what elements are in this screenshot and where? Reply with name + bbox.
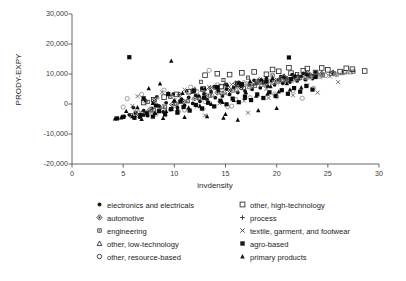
small-square-open-icon [94,225,105,236]
diamond-icon [94,212,105,223]
y-tick-label: 10,000 [24,69,68,78]
y-axis-title: PRODY-EXPY [14,40,23,120]
legend-item[interactable]: other, high-technology [237,198,350,211]
legend-column-left: electronics and electricalsautomotiveeng… [94,198,194,263]
legend-column-right: other, high-technologyprocesstextile, ga… [237,198,350,263]
x-tick-label: 20 [262,169,292,178]
y-tick-label: 30,000 [24,9,68,18]
filled-triangle-icon [237,251,248,262]
legend-item[interactable]: process [237,211,350,224]
square-open-icon [237,199,248,210]
legend-item-label: other, resource-based [105,251,181,264]
triangle-open-icon [94,238,105,249]
scatter-plot-area: -20,000-10,000010,00020,00030,000 051015… [0,0,406,200]
legend-item[interactable]: electronics and electricals [94,198,194,211]
x-tick-label: 15 [211,169,241,178]
legend-item[interactable]: automotive [94,211,194,224]
legend-item[interactable]: textile, garment, and footwear [237,224,350,237]
x-tick-label: 25 [313,169,343,178]
x-axis-title: invdensity [160,181,270,190]
x-tick-label: 0 [57,169,87,178]
cross-icon [237,225,248,236]
legend-item[interactable]: other, resource-based [94,250,194,263]
series-automotive [134,70,335,117]
y-tick-label: -10,000 [24,129,68,138]
legend-item-label: primary products [248,251,307,264]
y-tick-label: 20,000 [24,39,68,48]
chart-figure: -20,000-10,000010,00020,00030,000 051015… [0,0,406,281]
legend-item[interactable]: agro-based [237,237,350,250]
filled-square-icon [237,238,248,249]
x-tick-label: 10 [159,169,189,178]
chart-legend: electronics and electricalsautomotiveeng… [0,198,406,281]
filled-circle-icon [94,199,105,210]
legend-item[interactable]: other, low-technology [94,237,194,250]
y-tick-label: -20,000 [24,159,68,168]
y-tick-label: 0 [24,99,68,108]
circle-open-icon [94,251,105,262]
x-tick-label: 30 [364,169,394,178]
legend-item[interactable]: engineering [94,224,194,237]
data-points-group [113,55,367,122]
plus-icon [237,212,248,223]
legend-item[interactable]: primary products [237,250,350,263]
x-tick-label: 5 [108,169,138,178]
